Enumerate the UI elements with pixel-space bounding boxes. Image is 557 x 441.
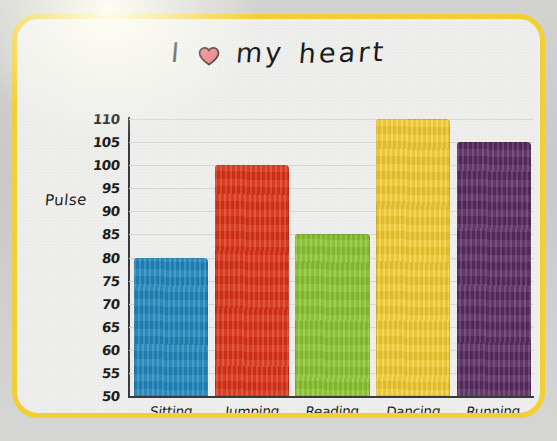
title-word-i: I [170, 37, 184, 68]
title-word-my: my [235, 36, 286, 68]
bar-group [131, 119, 534, 396]
bar-slot-sitting [131, 119, 212, 396]
chart-poster-card: I myheart Pulse 110105100959085807570656… [12, 14, 545, 418]
y-tick-label-65: 65 [101, 318, 120, 334]
bar-sitting[interactable] [134, 258, 208, 397]
bar-reading[interactable] [295, 234, 369, 396]
bar-running[interactable] [457, 142, 531, 396]
y-tick-label-75: 75 [101, 272, 120, 288]
bar-slot-jumping [212, 119, 293, 396]
y-tick-label-70: 70 [101, 295, 120, 311]
x-label-sitting: Sitting [130, 402, 212, 418]
x-label-jumping: Jumping [211, 402, 293, 418]
y-tick-label-90: 90 [101, 203, 120, 219]
bar-slot-dancing [373, 119, 454, 396]
y-tick-label-95: 95 [101, 180, 120, 196]
y-tick-label-100: 100 [92, 157, 120, 173]
gridline-50: 50 [129, 396, 534, 398]
bar-dancing[interactable] [376, 119, 450, 396]
title-word-heart: heart [297, 36, 387, 69]
y-tick-label-50: 50 [101, 388, 120, 404]
y-tick-label-105: 105 [92, 134, 120, 150]
chart-canvas: I myheart Pulse 110105100959085807570656… [17, 19, 540, 413]
y-tick-label-85: 85 [101, 226, 120, 242]
y-tick-label-110: 110 [92, 111, 120, 127]
y-tick-label-60: 60 [101, 342, 120, 358]
plot-area: 11010510095908580757065605550 [129, 119, 534, 396]
bar-slot-running [453, 119, 534, 396]
x-label-reading: Reading [291, 402, 373, 418]
photo-backdrop: I myheart Pulse 110105100959085807570656… [0, 0, 557, 441]
x-label-dancing: Dancing [372, 402, 454, 418]
y-tick-label-80: 80 [101, 249, 120, 265]
y-tick-label-55: 55 [101, 365, 120, 381]
x-axis-labels: SittingJumpingReadingDancingRunning [131, 403, 534, 418]
bar-slot-reading [292, 119, 373, 396]
y-axis-title: Pulse [44, 191, 88, 210]
bar-jumping[interactable] [215, 165, 289, 396]
heart-icon [198, 41, 220, 61]
x-label-running: Running [452, 402, 534, 418]
page-title: I myheart [17, 35, 540, 68]
